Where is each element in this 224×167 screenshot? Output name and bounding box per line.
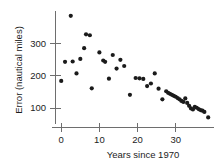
data-point <box>114 67 118 71</box>
data-points-group <box>59 14 210 120</box>
y-axis-title: Error (nautical miles) <box>13 26 24 114</box>
data-point <box>82 46 86 50</box>
scatter-plot-figure: 100200300 0102030 Error (nautical miles)… <box>0 0 224 167</box>
y-axis: 100200300 <box>30 11 61 124</box>
y-tick-label: 100 <box>30 102 46 113</box>
y-axis-tick-labels: 100200300 <box>30 38 46 114</box>
data-point <box>111 53 115 57</box>
x-tick-label: 20 <box>132 134 143 145</box>
data-point <box>78 57 82 61</box>
data-point <box>74 71 78 75</box>
data-point <box>128 93 132 97</box>
x-axis-title: Years since 1970 <box>107 149 180 160</box>
data-point <box>183 96 187 100</box>
x-axis-tick-labels: 0102030 <box>59 134 181 145</box>
data-point <box>181 100 185 104</box>
x-tick-label: 0 <box>59 134 64 145</box>
data-point <box>107 77 111 81</box>
data-point <box>84 32 88 36</box>
data-point <box>145 84 149 88</box>
data-point <box>69 14 73 18</box>
data-point <box>156 87 160 91</box>
data-point <box>141 77 145 81</box>
data-point <box>59 79 63 83</box>
data-point <box>160 97 164 101</box>
data-point <box>149 81 153 85</box>
data-point <box>90 86 94 90</box>
data-point <box>206 115 210 119</box>
x-tick-label: 10 <box>94 134 105 145</box>
data-point <box>71 59 75 63</box>
data-point <box>103 60 107 64</box>
x-axis: 0102030 <box>52 123 214 145</box>
data-point <box>97 50 101 54</box>
data-point <box>118 58 122 62</box>
data-point <box>137 76 141 80</box>
data-point <box>202 110 206 114</box>
data-point <box>153 71 157 75</box>
data-point <box>88 33 92 37</box>
data-point <box>122 64 126 68</box>
x-tick-label: 30 <box>170 134 181 145</box>
chart-canvas: 100200300 0102030 Error (nautical miles)… <box>0 0 224 167</box>
y-tick-label: 300 <box>30 38 46 49</box>
data-point <box>63 60 67 64</box>
y-tick-label: 200 <box>30 70 46 81</box>
data-point <box>134 76 138 80</box>
